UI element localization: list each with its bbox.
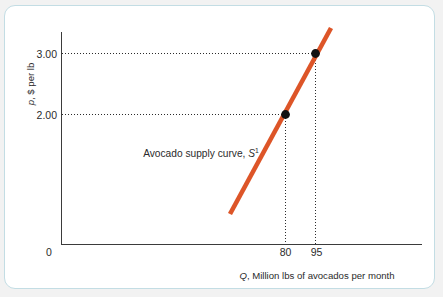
curve-annotation-text: Avocado supply curve, [143,148,248,159]
y-tick-label-200: 2.00 [37,109,58,121]
figure-card: 3.00 2.00 0 80 95 p, $ per lb Q, Million… [4,5,435,289]
x-axis-title: Q, Million lbs of avocados per month [239,270,394,281]
curve-annotation-label: Avocado supply curve, S1 [143,147,259,159]
origin-label: 0 [46,246,52,258]
figure-page: 3.00 2.00 0 80 95 p, $ per lb Q, Million… [0,0,443,297]
y-axis-title: p, $ per lb [25,63,36,107]
data-point-95-300 [311,49,320,58]
y-axis-title-rest: , $ per lb [25,63,36,100]
x-tick-label-95: 95 [311,246,323,258]
supply-curve-chart: 3.00 2.00 0 80 95 p, $ per lb Q, Million… [5,6,435,289]
x-axis-title-rest: , Million lbs of avocados per month [247,270,395,281]
y-tick-label-300: 3.00 [37,48,58,60]
data-point-80-200 [281,110,290,119]
x-tick-label-80: 80 [280,246,292,258]
curve-annotation-superscript: 1 [255,147,259,154]
